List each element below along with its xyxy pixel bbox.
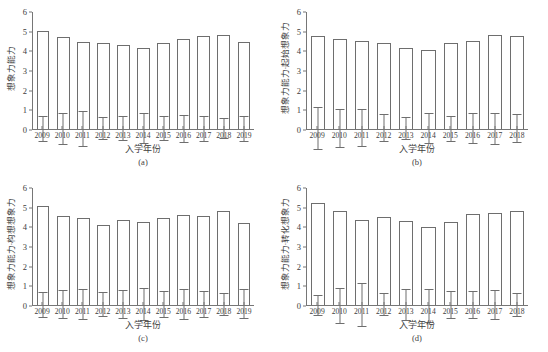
- panel-a-bar-slot: [53, 12, 73, 129]
- panel-a-x-tick-label: 2018: [214, 130, 234, 142]
- bar: [510, 211, 524, 305]
- panel-c-x-tick-label: 2011: [72, 306, 92, 318]
- bar: [421, 227, 435, 305]
- panel-d-y-tick-mark: [303, 247, 306, 248]
- panel-a-bar-slot: [93, 12, 113, 129]
- panel-c-bar-slot: [73, 188, 93, 305]
- panel-b-bar-slot: [329, 12, 351, 129]
- panel-a-x-tick-mark: [122, 126, 123, 130]
- panel-d-x-tick-mark: [472, 302, 473, 306]
- bar: [217, 35, 230, 129]
- panel-a-bar-slot: [73, 12, 93, 129]
- panel-c-y-tick-mark: [29, 188, 32, 189]
- error-bar-cap-upper: [336, 109, 345, 110]
- panel-c-y-axis-label: 想象力能力·构想想象力: [4, 182, 18, 306]
- panel-a-tag: (a): [32, 157, 254, 168]
- panel-a-y-tick-mark: [29, 12, 32, 13]
- panel-a-x-tick-mark: [62, 126, 63, 130]
- panel-c-x-tick-mark: [203, 302, 204, 306]
- bar: [117, 45, 130, 129]
- panel-c-plot-area: 0123456: [32, 188, 254, 306]
- bar: [311, 203, 325, 305]
- panel-d-bar-slot: [462, 188, 484, 305]
- panel-d-bars: [307, 188, 528, 305]
- error-bar-cap-upper: [446, 116, 455, 117]
- panel-b-x-tick-label: 2010: [328, 130, 350, 142]
- panel-c-bar-slot: [33, 188, 53, 305]
- panel-c-y-tick-mark: [29, 266, 32, 267]
- panel-c-bar-slot: [93, 188, 113, 305]
- error-bar-cap-upper: [199, 116, 208, 117]
- error-bar-cap-upper: [336, 288, 345, 289]
- panel-b-x-tick-label: 2016: [461, 130, 483, 142]
- panel-a: 想象力能力 0123456 20092010201120122013201420…: [0, 0, 274, 176]
- panel-b-x-tick-mark: [472, 126, 473, 130]
- panel-b-x-tick-mark: [361, 126, 362, 130]
- error-bar-cap-upper: [139, 113, 148, 114]
- panel-b-x-tick-mark: [450, 126, 451, 130]
- panel-b-bar-slot: [417, 12, 439, 129]
- panel-c-x-tick-label: 2016: [173, 306, 193, 318]
- error-bar-cap-upper: [159, 116, 168, 117]
- bar: [355, 220, 369, 305]
- bar: [137, 222, 150, 305]
- panel-d-tag: (d): [306, 333, 528, 344]
- error-bar-cap-upper: [59, 290, 68, 291]
- bar: [157, 218, 170, 305]
- panel-d-x-tick-label: 2014: [417, 306, 439, 318]
- panel-c-x-tick-label: 2017: [194, 306, 214, 318]
- bar: [444, 222, 458, 305]
- panel-b-y-tick-mark: [303, 12, 306, 13]
- panel-a-x-tick-label: 2012: [93, 130, 113, 142]
- panel-c-x-axis-label: 入学年份: [32, 319, 254, 331]
- panel-b-bar-slot: [395, 12, 417, 129]
- bar: [157, 43, 170, 129]
- bar: [177, 215, 190, 305]
- panel-c-y-tick-mark: [29, 247, 32, 248]
- panel-d-x-tick-mark: [405, 302, 406, 306]
- error-bar-cap-upper: [39, 116, 48, 117]
- error-bar-cap-upper: [358, 283, 367, 284]
- panel-a-y-tick-mark: [29, 51, 32, 52]
- error-bar-cap-upper: [358, 109, 367, 110]
- panel-d-x-tick-label: 2016: [461, 306, 483, 318]
- error-bar-cap-upper: [179, 289, 188, 290]
- panel-a-y-tick-mark: [29, 31, 32, 32]
- bar: [421, 50, 435, 129]
- panel-d-x-tick-label: 2015: [439, 306, 461, 318]
- bar: [137, 48, 150, 129]
- panel-c-x-tick-label: 2012: [93, 306, 113, 318]
- panel-b-bars: [307, 12, 528, 129]
- panel-b-y-tick-mark: [303, 71, 306, 72]
- panel-c-bar-slot: [174, 188, 194, 305]
- panel-c-x-tick-label: 2015: [153, 306, 173, 318]
- panel-a-x-tick-label: 2013: [113, 130, 133, 142]
- panel-a-bar-slot: [133, 12, 153, 129]
- figure-four-panel-bar-charts: 想象力能力 0123456 20092010201120122013201420…: [0, 0, 548, 352]
- panel-c-y-tick-mark: [29, 207, 32, 208]
- panel-c-x-tick-mark: [82, 302, 83, 306]
- panel-b-x-tick-mark: [494, 126, 495, 130]
- error-bar-cap-upper: [119, 116, 128, 117]
- panel-a-bars: [33, 12, 254, 129]
- bar: [57, 37, 70, 129]
- panel-d-y-tick-mark: [303, 286, 306, 287]
- panel-d-y-tick-mark: [303, 188, 306, 189]
- error-bar-cap-upper: [512, 114, 521, 115]
- panel-d-plot-area: 0123456: [306, 188, 528, 306]
- error-bar-cap-upper: [490, 113, 499, 114]
- error-bar-cap-upper: [219, 118, 228, 119]
- panel-c-x-tick-mark: [183, 302, 184, 306]
- panel-b-y-axis-label: 想象力能力·起始想象力: [278, 6, 292, 130]
- bar: [117, 220, 130, 305]
- panel-c-bar-slot: [133, 188, 153, 305]
- error-bar-cap-upper: [314, 295, 323, 296]
- panel-b-bar-slot: [351, 12, 373, 129]
- panel-d-x-tick-mark: [494, 302, 495, 306]
- panel-d-bar-slot: [440, 188, 462, 305]
- panel-b-bar-slot: [307, 12, 329, 129]
- panel-c-x-tick-label: 2013: [113, 306, 133, 318]
- panel-d-bar-slot: [417, 188, 439, 305]
- panel-d-x-tick-mark: [450, 302, 451, 306]
- panel-b: 想象力能力·起始想象力 0123456 20092010201120122013…: [274, 0, 548, 176]
